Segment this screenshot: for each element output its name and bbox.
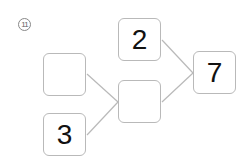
box-top-left-empty[interactable] [43,53,86,96]
problem-number: 11 [18,18,31,31]
box-result: 7 [193,51,236,94]
box-middle-empty[interactable] [118,80,161,123]
box-top: 2 [118,18,161,61]
box-bottom-left: 3 [43,113,86,156]
